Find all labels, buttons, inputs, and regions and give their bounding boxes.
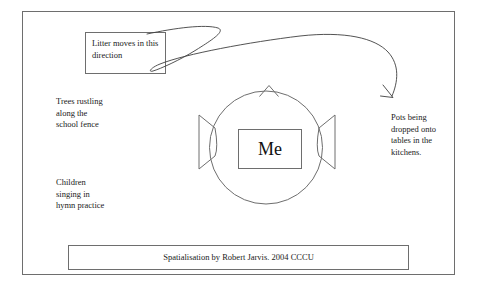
annotation-pots-dropped: Pots being dropped onto tables in the ki… — [391, 112, 478, 158]
litter-callout-box: Litter moves in this direction — [85, 32, 166, 74]
diagram-page: Litter moves in this direction Trees rus… — [0, 0, 478, 290]
right-ear-icon — [317, 115, 335, 169]
caption-box: Spatialisation by Robert Jarvis. 2004 CC… — [68, 245, 409, 270]
me-label: Me — [258, 140, 282, 158]
litter-callout-label: Litter moves in this direction — [92, 38, 164, 61]
annotation-trees-rustling: Trees rustling along the school fence — [56, 96, 140, 131]
me-box: Me — [238, 129, 302, 169]
caption-label: Spatialisation by Robert Jarvis. 2004 CC… — [163, 252, 314, 263]
left-ear-icon — [199, 115, 217, 169]
page-frame: Litter moves in this direction Trees rus… — [22, 11, 455, 275]
annotation-children-singing: Children singing in hymn practice — [56, 177, 140, 212]
